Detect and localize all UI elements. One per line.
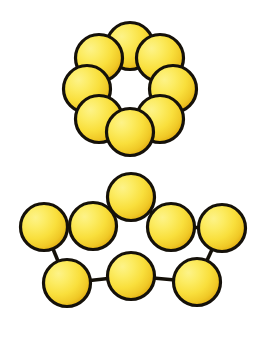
atom-c8 <box>44 260 91 307</box>
atom-sphere <box>108 253 155 300</box>
atom-sphere <box>44 260 91 307</box>
atom-c2 <box>70 203 117 250</box>
atom-c6 <box>174 259 221 306</box>
atom-sphere <box>107 109 154 156</box>
figure-canvas: Sulfur allotrope sphere models <box>0 0 271 344</box>
atom-r5 <box>107 109 154 156</box>
atom-sphere <box>148 204 195 251</box>
atom-c5 <box>199 205 246 252</box>
atom-c1 <box>21 204 68 251</box>
atom-sphere <box>199 205 246 252</box>
sulfur-allotropes-diagram <box>0 0 271 344</box>
atom-c4 <box>148 204 195 251</box>
atom-sphere <box>21 204 68 251</box>
atom-c7 <box>108 253 155 300</box>
atom-sphere <box>174 259 221 306</box>
atom-sphere <box>70 203 117 250</box>
